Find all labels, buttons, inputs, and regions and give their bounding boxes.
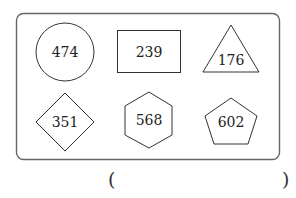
- pentagon-shape: 602: [205, 98, 257, 144]
- hexagon-shape: 568: [125, 92, 172, 148]
- circle-shape: 474: [36, 23, 94, 81]
- circle-value: 474: [52, 44, 79, 60]
- triangle-shape: 176: [203, 25, 259, 72]
- hexagon-value: 568: [136, 112, 163, 128]
- answer-open-paren: (: [108, 168, 115, 190]
- pentagon-value: 602: [218, 114, 245, 130]
- outer-frame: [17, 14, 280, 160]
- answer-close-paren: ): [282, 168, 289, 190]
- shapes-diagram: 474 239 176 351 568 602: [0, 0, 296, 198]
- triangle-value: 176: [218, 52, 245, 68]
- diamond-value: 351: [52, 114, 79, 130]
- rectangle-shape: 239: [118, 31, 181, 73]
- diamond-shape: 351: [36, 93, 94, 151]
- rectangle-value: 239: [136, 44, 163, 60]
